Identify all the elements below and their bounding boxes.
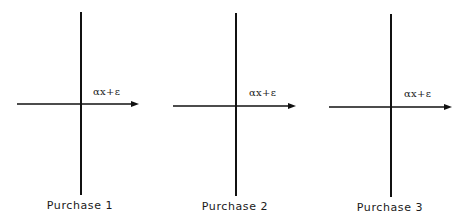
axis-label-1: αx+ε bbox=[93, 86, 120, 97]
axis-label-2: αx+ε bbox=[249, 87, 276, 98]
diagram-canvas bbox=[0, 0, 463, 222]
arrowhead-icon bbox=[288, 103, 296, 109]
panel-purchase-1 bbox=[17, 12, 139, 195]
arrowhead-icon bbox=[444, 104, 452, 110]
caption-purchase-2: Purchase 2 bbox=[202, 200, 268, 213]
caption-purchase-1: Purchase 1 bbox=[47, 199, 113, 212]
panel-purchase-3 bbox=[329, 14, 452, 197]
arrowhead-icon bbox=[131, 101, 139, 107]
caption-purchase-3: Purchase 3 bbox=[357, 201, 423, 214]
axis-label-3: αx+ε bbox=[404, 88, 431, 99]
panel-purchase-2 bbox=[173, 13, 296, 196]
